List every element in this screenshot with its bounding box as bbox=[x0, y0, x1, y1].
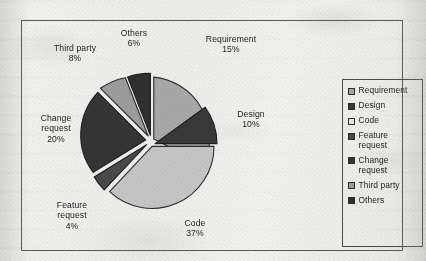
legend-swatch-design bbox=[348, 103, 355, 110]
slice-label-design: Design 10% bbox=[222, 109, 280, 130]
legend-item-requirement[interactable]: Requirement bbox=[348, 86, 422, 96]
legend-swatch-feature-request bbox=[348, 133, 355, 140]
legend-item-third-party[interactable]: Third party bbox=[348, 181, 422, 191]
legend-item-change-request[interactable]: Change request bbox=[348, 156, 422, 175]
slice-label-others: Others 6% bbox=[110, 28, 158, 49]
legend-item-feature-request[interactable]: Feature request bbox=[348, 131, 422, 150]
legend-swatch-change-request bbox=[348, 157, 355, 164]
legend-label-design: Design bbox=[359, 101, 386, 111]
legend-swatch-requirement bbox=[348, 88, 355, 95]
legend-swatch-others bbox=[348, 197, 355, 204]
slice-label-requirement: Requirement 15% bbox=[188, 34, 274, 55]
legend-label-others: Others bbox=[359, 196, 385, 206]
legend-label-change-request: Change request bbox=[359, 156, 389, 175]
legend-item-others[interactable]: Others bbox=[348, 196, 422, 206]
legend-swatch-third-party bbox=[348, 182, 355, 189]
legend-swatch-code bbox=[348, 118, 355, 125]
legend-label-feature-request: Feature request bbox=[359, 131, 389, 150]
pie-slice-code[interactable] bbox=[110, 146, 214, 208]
legend-label-code: Code bbox=[359, 116, 379, 126]
chart-legend: Requirement Design Code Feature request … bbox=[342, 79, 423, 247]
slice-label-feature-request: Feature request 4% bbox=[43, 200, 101, 231]
slice-label-third-party: Third party 8% bbox=[39, 43, 111, 64]
chart-frame: Requirement 15% Design 10% Code 37% Feat… bbox=[21, 20, 403, 251]
slice-label-code: Code 37% bbox=[170, 218, 220, 239]
legend-item-design[interactable]: Design bbox=[348, 101, 422, 111]
slice-label-change-request: Change request 20% bbox=[26, 113, 86, 144]
legend-item-code[interactable]: Code bbox=[348, 116, 422, 126]
legend-label-third-party: Third party bbox=[359, 181, 400, 191]
legend-label-requirement: Requirement bbox=[359, 86, 408, 96]
